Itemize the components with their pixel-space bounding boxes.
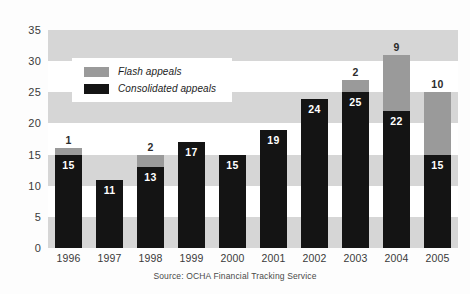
bar-segment-consolidated[interactable]: 17 — [178, 142, 205, 248]
bar-segment-consolidated[interactable]: 19 — [260, 130, 287, 248]
bar-segment-consolidated[interactable]: 15 — [55, 155, 82, 248]
bar-value-label-consolidated: 25 — [342, 96, 369, 108]
bar-value-label-consolidated: 17 — [178, 146, 205, 158]
legend-swatch-icon-flash — [84, 67, 109, 77]
bar-value-label-consolidated: 15 — [219, 159, 246, 171]
bar-value-label-consolidated: 15 — [424, 159, 451, 171]
bar-value-label-consolidated: 15 — [55, 159, 82, 171]
y-axis-tick-label: 0 — [35, 242, 41, 254]
bar-value-label-consolidated: 19 — [260, 134, 287, 146]
chart-container: 15111132171519242522291510 0510152025303… — [0, 0, 470, 294]
bar-segment-consolidated[interactable]: 25 — [342, 92, 369, 248]
bar-segment-consolidated[interactable]: 11 — [96, 180, 123, 249]
bar-segment-flash[interactable] — [342, 80, 369, 92]
legend-label-flash: Flash appeals — [118, 66, 182, 77]
bar-segment-flash[interactable] — [383, 55, 410, 111]
bar-group[interactable]: 19 — [260, 30, 287, 248]
y-axis-tick-label: 5 — [35, 211, 41, 223]
bar-segment-flash[interactable] — [137, 155, 164, 167]
legend-item-flash-appeals: Flash appeals — [84, 66, 216, 77]
y-axis-tick-label: 25 — [28, 86, 41, 98]
bar-group[interactable]: 24 — [301, 30, 328, 248]
legend-label-consolidated: Consolidated appeals — [118, 83, 216, 94]
y-axis: 05101520253035 — [0, 0, 48, 248]
x-axis-tick-label: 2005 — [413, 252, 463, 264]
bar-value-label-flash: 1 — [55, 134, 82, 146]
bar-value-label-flash: 2 — [137, 141, 164, 153]
legend-swatch-icon-consolidated — [84, 84, 109, 94]
bar-group[interactable]: 229 — [383, 30, 410, 248]
bar-value-label-consolidated: 13 — [137, 171, 164, 183]
y-axis-tick-label: 30 — [28, 55, 41, 67]
bar-segment-consolidated[interactable]: 15 — [219, 155, 246, 248]
bar-value-label-flash: 9 — [383, 41, 410, 53]
y-axis-tick-label: 15 — [28, 149, 41, 161]
bar-value-label-flash: 10 — [424, 78, 451, 90]
bar-group[interactable]: 252 — [342, 30, 369, 248]
bar-segment-consolidated[interactable]: 15 — [424, 155, 451, 248]
bar-segment-consolidated[interactable]: 22 — [383, 111, 410, 248]
bar-segment-flash[interactable] — [424, 92, 451, 154]
bar-segment-consolidated[interactable]: 13 — [137, 167, 164, 248]
y-axis-tick-label: 20 — [28, 117, 41, 129]
bar-group[interactable]: 1510 — [424, 30, 451, 248]
legend-item-consolidated-appeals: Consolidated appeals — [84, 83, 216, 94]
y-axis-tick-label: 10 — [28, 180, 41, 192]
chart-legend: Flash appeals Consolidated appeals — [72, 58, 232, 102]
bar-value-label-consolidated: 22 — [383, 115, 410, 127]
bar-value-label-consolidated: 24 — [301, 103, 328, 115]
bar-value-label-flash: 2 — [342, 66, 369, 78]
bar-value-label-consolidated: 11 — [96, 184, 123, 196]
x-axis: 1996199719981999200020012002200320042005 — [48, 250, 458, 268]
bar-segment-consolidated[interactable]: 24 — [301, 99, 328, 248]
source-note: Source: OCHA Financial Tracking Service — [0, 271, 470, 281]
bar-segment-flash[interactable] — [55, 148, 82, 154]
y-axis-tick-label: 35 — [28, 24, 41, 36]
